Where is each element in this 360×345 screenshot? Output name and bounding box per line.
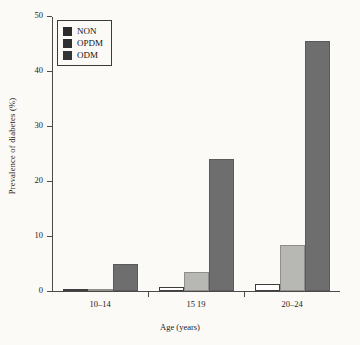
chart-legend: NONOPDMODM [57, 20, 112, 66]
bar [305, 41, 330, 291]
y-axis-tick: 10 [47, 236, 52, 237]
legend-item: OPDM [63, 37, 103, 49]
legend-swatch-icon [63, 27, 72, 36]
bar [255, 284, 280, 291]
bar [113, 264, 138, 292]
bar-group [255, 16, 330, 291]
bar [63, 289, 88, 291]
y-axis-tick: 20 [47, 181, 52, 182]
y-axis-tick-label: 50 [35, 10, 44, 21]
x-axis-category-label: 15 19 [159, 299, 234, 309]
y-axis-tick-label: 10 [35, 230, 44, 241]
y-axis-line [52, 17, 53, 292]
y-axis-tick-label: 20 [35, 175, 44, 186]
legend-swatch-icon [63, 39, 72, 48]
legend-item-label: ODM [77, 50, 98, 61]
legend-item-label: OPDM [77, 38, 103, 49]
y-axis-title: Prevalence of diabetes (%) [4, 0, 20, 292]
bar [159, 287, 184, 291]
legend-item: NON [63, 25, 103, 37]
x-axis-line [52, 291, 340, 292]
bar [280, 245, 305, 291]
x-axis-tick [148, 292, 149, 297]
x-axis-tick [244, 292, 245, 297]
bar [209, 159, 234, 291]
chart-figure: Prevalence of diabetes (%) 01020304050 1… [0, 0, 360, 345]
y-axis-tick-label: 40 [35, 65, 44, 76]
x-axis-category-label: 10–14 [63, 299, 138, 309]
bar-group [159, 16, 234, 291]
y-axis-tick: 30 [47, 126, 52, 127]
legend-item: ODM [63, 49, 103, 61]
y-axis-tick-label: 30 [35, 120, 44, 131]
legend-swatch-icon [63, 51, 72, 60]
x-axis-category-label: 20–24 [255, 299, 330, 309]
legend-item-label: NON [77, 26, 97, 37]
y-axis-title-text: Prevalence of diabetes (%) [7, 98, 17, 195]
y-axis-tick-label: 0 [39, 285, 43, 296]
x-axis-title: Age (years) [0, 322, 360, 332]
bar [184, 272, 209, 291]
y-axis-tick: 40 [47, 71, 52, 72]
y-axis-tick: 0 [47, 291, 52, 292]
bar [88, 289, 113, 291]
y-axis-tick: 50 [47, 16, 52, 17]
